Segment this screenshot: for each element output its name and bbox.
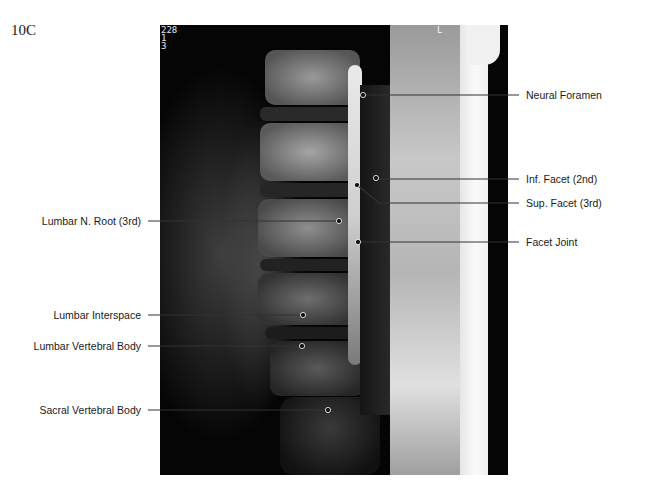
pointer-dot-facet-joint (355, 239, 360, 244)
pointer-dot-lumbar-vertebral-body (299, 343, 304, 348)
pointer-dot-sup-facet (354, 182, 359, 187)
label-sup-facet: Sup. Facet (3rd) (526, 197, 602, 209)
label-lumbar-interspace: Lumbar Interspace (53, 309, 141, 321)
label-lumbar-n-root: Lumbar N. Root (3rd) (42, 215, 141, 227)
pointer-dot-neural-foramen (360, 92, 365, 97)
label-neural-foramen: Neural Foramen (526, 89, 602, 101)
leader-sup-facet (357, 185, 519, 203)
pointer-dot-lumbar-interspace (300, 312, 305, 317)
label-lumbar-vertebral-body: Lumbar Vertebral Body (34, 340, 141, 352)
label-facet-joint: Facet Joint (526, 236, 577, 248)
label-inf-facet: Inf. Facet (2nd) (526, 173, 597, 185)
pointer-dot-sacral-vertebral-body (325, 407, 330, 412)
pointer-dot-lumbar-n-root (336, 218, 341, 223)
label-sacral-vertebral-body: Sacral Vertebral Body (39, 404, 141, 416)
pointer-dot-inf-facet (373, 175, 378, 180)
